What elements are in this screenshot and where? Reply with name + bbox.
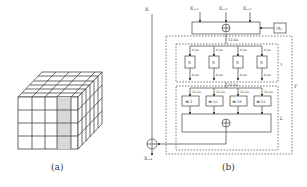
label-8bit: 8-bit (240, 48, 248, 52)
label-32bit: 32-bit (216, 90, 226, 94)
label-32bit-mid: 32-bit (228, 83, 239, 87)
round-function-diagram: Xᵢ Xᵢ₊₁ Xᵢ₊₂ Xᵢ₊₃ rkᵢ 32-bit 8-bit 8-bit… (140, 0, 307, 187)
label-32bit-top: 32-bit (228, 38, 239, 42)
label-tau: τ (280, 62, 283, 67)
rotation-18: ≪ 18 (232, 100, 242, 104)
label-xi2: Xᵢ₊₂ (218, 6, 227, 11)
label-8bit: 8-bit (192, 48, 200, 52)
label-8bit: 8-bit (264, 48, 272, 52)
rotation-10: ≪ 10 (208, 100, 218, 104)
label-32bit: 32-bit (192, 90, 202, 94)
label-8bit: 8-bit (240, 73, 248, 77)
cube-grid-figure (0, 0, 140, 187)
label-32bit: 32-bit (240, 90, 250, 94)
sbox-label: S (188, 60, 191, 65)
label-L: L (279, 116, 283, 121)
label-8bit: 8-bit (216, 73, 224, 77)
sbox-label: S (260, 60, 263, 65)
label-T: T (294, 84, 298, 89)
label-xi1: Xᵢ₊₁ (189, 6, 198, 11)
rotation-2: ≪ 2 (185, 100, 192, 104)
caption-a: (a) (51, 162, 63, 172)
label-output: Xᵢ₊₄ (143, 156, 152, 161)
sbox-label: S (212, 60, 215, 65)
rotation-24: ≪ 24 (256, 100, 266, 104)
label-xi: Xᵢ (144, 7, 149, 12)
caption-b: (b) (222, 162, 235, 172)
label-8bit: 8-bit (264, 73, 272, 77)
label-rk: rkᵢ (276, 26, 282, 31)
label-8bit: 8-bit (216, 48, 224, 52)
label-xi3: Xᵢ₊₃ (242, 6, 251, 11)
label-32bit: 32-bit (264, 90, 274, 94)
label-8bit: 8-bit (192, 73, 200, 77)
sbox-label: S (236, 60, 239, 65)
